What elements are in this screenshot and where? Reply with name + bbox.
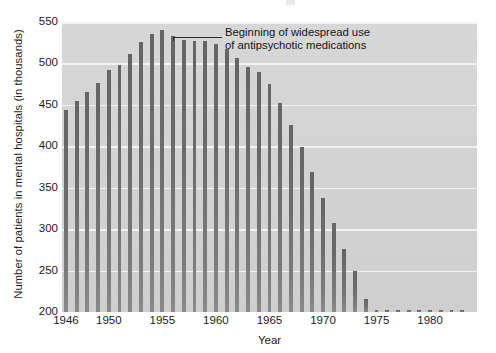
annotation-text: Beginning of widespread use of antipsych… xyxy=(225,26,425,52)
bar xyxy=(182,40,186,312)
gridline xyxy=(62,63,477,65)
bar xyxy=(160,30,164,312)
bar xyxy=(246,67,250,312)
scan-artifact xyxy=(286,0,295,5)
x-tick-label: 1960 xyxy=(196,314,236,326)
bar xyxy=(225,49,229,312)
annotation-leader-line xyxy=(173,37,222,38)
y-tick-label: 450 xyxy=(24,99,58,111)
bar xyxy=(118,65,122,312)
y-tick-label: 400 xyxy=(24,140,58,152)
x-tick-label: 1955 xyxy=(142,314,182,326)
x-tick-label: 1980 xyxy=(410,314,450,326)
x-tick-label: 1946 xyxy=(46,314,86,326)
bar xyxy=(417,310,421,312)
bar xyxy=(450,310,454,312)
bar xyxy=(289,125,293,312)
bar xyxy=(268,84,272,312)
x-tick-label: 1975 xyxy=(357,314,397,326)
y-tick-label: 550 xyxy=(24,16,58,28)
bar xyxy=(235,58,239,312)
bar xyxy=(96,83,100,312)
bar xyxy=(407,310,411,312)
bar xyxy=(64,110,68,312)
x-tick-label: 1970 xyxy=(303,314,343,326)
bar xyxy=(150,34,154,312)
plot-area xyxy=(62,22,477,312)
bar xyxy=(428,310,432,312)
bar xyxy=(375,310,379,312)
bar xyxy=(139,42,143,312)
bar xyxy=(353,271,357,312)
bar xyxy=(171,36,175,312)
bar xyxy=(385,310,389,312)
bar xyxy=(364,299,368,312)
bar xyxy=(257,72,261,312)
bar xyxy=(321,198,325,312)
annotation-line-1: Beginning of widespread use xyxy=(225,26,425,39)
bar xyxy=(300,147,304,312)
bar xyxy=(310,172,314,312)
mental-hospital-patients-bar-chart: Number of patients in mental hospitals (… xyxy=(0,0,496,353)
x-axis-tick-labels: 19461950195519601965197019751980 xyxy=(0,314,496,334)
bar xyxy=(128,54,132,313)
bar xyxy=(193,41,197,312)
y-tick-label: 500 xyxy=(24,57,58,69)
gridline xyxy=(62,22,477,24)
bar xyxy=(396,310,400,312)
y-axis-tick-labels: 550500450400350300250200 xyxy=(22,0,58,353)
y-tick-label: 350 xyxy=(24,182,58,194)
bar xyxy=(278,103,282,312)
x-tick-label: 1965 xyxy=(249,314,289,326)
bar xyxy=(203,41,207,312)
bar xyxy=(332,223,336,312)
y-tick-label: 250 xyxy=(24,265,58,277)
bar xyxy=(460,310,464,312)
bar xyxy=(107,70,111,312)
bar xyxy=(342,249,346,312)
bar xyxy=(214,44,218,312)
x-tick-label: 1950 xyxy=(89,314,129,326)
y-tick-label: 300 xyxy=(24,223,58,235)
bar xyxy=(439,310,443,312)
bar xyxy=(85,92,89,312)
x-axis-label: Year xyxy=(62,334,477,346)
bar xyxy=(75,101,79,312)
annotation-line-2: of antipsychotic medications xyxy=(225,39,425,52)
annotation-leader-drop xyxy=(173,37,174,41)
